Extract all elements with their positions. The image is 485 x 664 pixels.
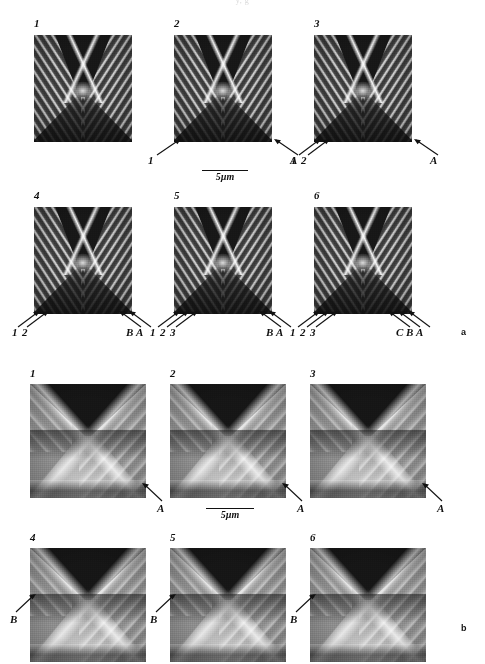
figure-group-b: 1 A 2 — [0, 352, 485, 664]
panel-number: 2 — [174, 18, 180, 29]
marker-label: A — [297, 503, 304, 514]
panel-number: 2 — [170, 368, 176, 379]
panel-number: 5 — [170, 532, 176, 543]
panel-number: 4 — [30, 532, 36, 543]
marker-label: A — [416, 327, 423, 338]
scale-bar: 5µm — [202, 170, 248, 182]
micrograph-cell: 4 — [30, 532, 150, 664]
figure-group-a: 1 2 — [0, 0, 485, 345]
marker-label: B — [10, 614, 17, 625]
micrograph-image — [34, 35, 132, 142]
micrograph-content — [34, 35, 132, 142]
marker-label: B — [406, 327, 413, 338]
vignette — [30, 548, 146, 662]
leader-arrow — [314, 309, 340, 329]
micrograph-content — [314, 207, 412, 314]
marker-label: 2 — [160, 327, 166, 338]
micrograph-cell: 1 — [34, 18, 142, 143]
micrograph-image — [310, 384, 426, 498]
leader-arrow — [294, 592, 318, 614]
micrograph-image — [34, 207, 132, 314]
marker-label: 2 — [301, 155, 307, 166]
marker-label: A — [437, 503, 444, 514]
micrograph-image — [174, 207, 272, 314]
marker-label: B — [290, 614, 297, 625]
micrograph-content — [310, 548, 426, 662]
vignette — [174, 207, 272, 314]
micrograph-content — [170, 384, 286, 498]
leader-arrow — [14, 592, 38, 614]
micrograph-content — [174, 207, 272, 314]
micrograph-cell: 4 — [34, 190, 142, 315]
micrograph-image — [314, 35, 412, 142]
micrograph-content — [30, 384, 146, 498]
marker-label: A — [157, 503, 164, 514]
marker-label: 3 — [170, 327, 176, 338]
group-letter-b: b — [461, 624, 467, 633]
scale-bar-label: 5µm — [202, 172, 248, 182]
scale-bar: 5µm — [206, 508, 254, 520]
micrograph-content — [170, 548, 286, 662]
vignette — [314, 35, 412, 142]
panel-number: 5 — [174, 190, 180, 201]
micrograph-content — [314, 35, 412, 142]
micrograph-content — [30, 548, 146, 662]
scale-bar-label: 5µm — [206, 510, 254, 520]
micrograph-image — [170, 384, 286, 498]
vignette — [174, 35, 272, 142]
panel-number: 4 — [34, 190, 40, 201]
panel-number: 1 — [30, 368, 36, 379]
vignette — [170, 548, 286, 662]
marker-label: A — [430, 155, 437, 166]
panel-number: 6 — [310, 532, 316, 543]
panel-number: 3 — [314, 18, 320, 29]
vignette — [310, 548, 426, 662]
panel-number: 6 — [314, 190, 320, 201]
marker-label: 2 — [22, 327, 28, 338]
marker-label: 1 — [291, 155, 297, 166]
micrograph-image — [174, 35, 272, 142]
micrograph-cell: 6 — [314, 190, 422, 315]
panel-number: 1 — [34, 18, 40, 29]
group-letter-a: a — [461, 328, 466, 337]
leader-arrow — [280, 481, 306, 503]
marker-label: A — [136, 327, 143, 338]
marker-label: B — [150, 614, 157, 625]
vignette — [310, 384, 426, 498]
marker-label: A — [276, 327, 283, 338]
micrograph-image — [30, 548, 146, 662]
figure-plate: y, g 1 2 — [0, 0, 485, 664]
micrograph-content — [310, 384, 426, 498]
micrograph-cell: 1 — [30, 368, 150, 500]
micrograph-cell: 6 — [310, 532, 430, 664]
marker-label: 1 — [12, 327, 18, 338]
micrograph-cell: 5 — [170, 532, 290, 664]
vignette — [34, 207, 132, 314]
leader-arrow — [174, 309, 200, 329]
marker-label: 1 — [290, 327, 296, 338]
leader-arrow — [25, 309, 51, 329]
micrograph-cell: 3 — [314, 18, 422, 143]
micrograph-image — [170, 548, 286, 662]
micrograph-image — [314, 207, 412, 314]
marker-label: B — [266, 327, 273, 338]
micrograph-image — [310, 548, 426, 662]
vignette — [30, 384, 146, 498]
micrograph-content — [174, 35, 272, 142]
marker-label: 1 — [150, 327, 156, 338]
micrograph-cell: 2 — [174, 18, 282, 143]
vignette — [314, 207, 412, 314]
leader-arrow — [155, 137, 183, 157]
panel-number: 3 — [310, 368, 316, 379]
vignette — [34, 35, 132, 142]
marker-label: 3 — [310, 327, 316, 338]
micrograph-cell: 2 — [170, 368, 290, 500]
micrograph-cell: 5 — [174, 190, 282, 315]
micrograph-content — [34, 207, 132, 314]
micrograph-image — [30, 384, 146, 498]
leader-arrow — [140, 481, 166, 503]
leader-arrow — [306, 137, 332, 157]
leader-arrow — [420, 481, 446, 503]
micrograph-cell: 3 — [310, 368, 430, 500]
marker-label: 1 — [148, 155, 154, 166]
